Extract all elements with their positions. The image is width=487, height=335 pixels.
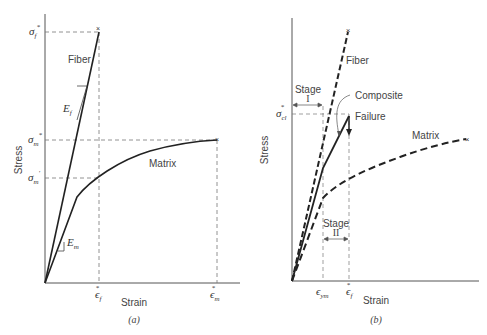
panel-b-ylabel: Stress xyxy=(259,136,270,164)
sigma-m-star-label: σm* xyxy=(28,131,43,148)
panel-a-xlabel: Strain xyxy=(121,297,147,308)
ef-slope-triangle xyxy=(77,86,87,120)
panel-b-fiber-curve xyxy=(292,32,348,281)
sigma-m-prime-label: σm′ xyxy=(28,169,41,186)
panel-b-fiber-label: Fiber xyxy=(346,55,369,66)
failure-arrow-icon xyxy=(346,129,352,136)
em-label: Em xyxy=(66,236,79,251)
ef-label: Ef xyxy=(62,102,73,117)
panel-b-eps-f-star-label: ϵf* xyxy=(346,281,353,300)
panel-b-composite-label: Composite xyxy=(355,90,403,101)
panel-b-matrix-label: Matrix xyxy=(412,130,439,141)
panel-b: × × Fiber Composite Failure Matrix Stage… xyxy=(259,18,479,326)
stage-1-number: I xyxy=(306,93,309,104)
panel-b-xlabel: Strain xyxy=(363,295,389,306)
panel-a-ylabel: Stress xyxy=(13,146,24,174)
eps-f-star-label: ϵf* xyxy=(95,284,102,303)
panel-b-matrix-end-mark: × xyxy=(465,135,470,144)
sigma-cl-star-label: σcl* xyxy=(276,103,287,122)
eps-m-star-label: ϵm* xyxy=(210,284,220,303)
panel-a-caption: (a) xyxy=(128,314,140,326)
panel-b-matrix-curve xyxy=(292,139,466,281)
eps-ym-label: ϵym xyxy=(316,285,329,300)
panel-b-caption: (b) xyxy=(370,314,382,326)
stage-2-number: II xyxy=(333,227,340,238)
sigma-f-star-label: σf* xyxy=(29,23,40,40)
fiber-end-mark: × xyxy=(96,25,100,32)
panel-b-fiber-end-mark: × xyxy=(346,26,351,35)
panel-a-fiber-label: Fiber xyxy=(68,54,91,65)
stress-strain-figure: × × Fiber Matrix Ef Em σf* σm* σm′ ϵf* ϵ… xyxy=(0,0,487,335)
panel-a: × × Fiber Matrix Ef Em σf* σm* σm′ ϵf* ϵ… xyxy=(13,14,240,326)
panel-a-matrix-label: Matrix xyxy=(149,158,176,169)
matrix-end-mark: × xyxy=(215,136,219,143)
panel-b-failure-label: Failure xyxy=(355,111,386,122)
